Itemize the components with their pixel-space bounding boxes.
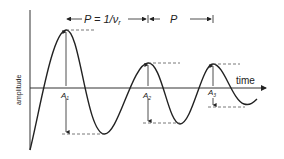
period1-label: P = 1/νr	[84, 13, 121, 26]
amplitude-axis-label: amplitude	[15, 75, 23, 105]
time-axis-label: time	[236, 75, 255, 86]
a3-label: A3	[207, 88, 216, 98]
damped-oscillation-diagram: P = 1/νr P time amplitude A1 A2 A3	[0, 0, 284, 159]
period2-label: P	[170, 13, 178, 25]
a1-label: A1	[60, 91, 69, 101]
a2-label: A2	[142, 91, 151, 101]
damped-waveform	[30, 30, 257, 150]
